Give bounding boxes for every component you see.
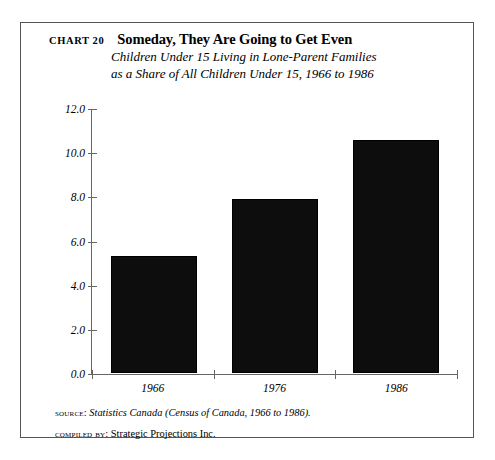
title-line: CHART 20 Someday, They Are Going to Get … — [49, 31, 461, 48]
y-axis-label: 2.0 — [71, 324, 85, 336]
bar-1966 — [111, 256, 197, 373]
plot-area: 12.0 10.0 8.0 6.0 4.0 2.0 — [91, 109, 457, 375]
y-axis-label: 6.0 — [71, 236, 85, 248]
chart-number: CHART 20 — [49, 35, 104, 46]
bar-1976 — [232, 199, 318, 373]
bar-slot — [336, 109, 457, 373]
bar-series — [93, 109, 457, 373]
title-block: CHART 20 Someday, They Are Going to Get … — [49, 31, 461, 82]
y-axis-label: 10.0 — [65, 147, 85, 159]
x-axis-tick — [457, 370, 458, 379]
chart-subtitle-line-1: Children Under 15 Living in Lone-Parent … — [111, 48, 461, 65]
y-axis-label: 4.0 — [71, 280, 85, 292]
chart-subtitle-line-2: as a Share of All Children Under 15, 196… — [111, 65, 461, 82]
y-axis-label: 12.0 — [65, 103, 85, 115]
page-title: Someday, They Are Going to Get Even — [117, 31, 352, 48]
bar-slot — [93, 109, 214, 373]
bar-1986 — [353, 140, 439, 373]
chart-frame: CHART 20 Someday, They Are Going to Get … — [20, 22, 474, 438]
compiled-label: Compiled by: — [55, 428, 108, 439]
bar-slot — [214, 109, 335, 373]
compiled-note: Compiled by: Strategic Projections Inc. — [55, 426, 453, 442]
source-label: Source: — [55, 407, 87, 418]
y-axis-label: 8.0 — [71, 191, 85, 203]
notes-block: Source: Statistics Canada (Census of Can… — [55, 405, 453, 447]
x-axis-label-1966: 1966 — [141, 382, 164, 394]
x-axis-tick — [335, 370, 336, 379]
plot-wrapper: 12.0 10.0 8.0 6.0 4.0 2.0 — [71, 109, 457, 375]
y-axis-label: 0.0 — [71, 368, 85, 380]
x-axis-label-1986: 1986 — [385, 382, 408, 394]
x-axis-tick — [92, 370, 93, 379]
source-text: Statistics Canada (Census of Canada, 196… — [89, 407, 310, 418]
source-note: Source: Statistics Canada (Census of Can… — [55, 405, 453, 421]
x-axis-label-1976: 1976 — [263, 382, 286, 394]
compiled-text: Strategic Projections Inc. — [111, 428, 216, 439]
x-axis-tick — [214, 370, 215, 379]
